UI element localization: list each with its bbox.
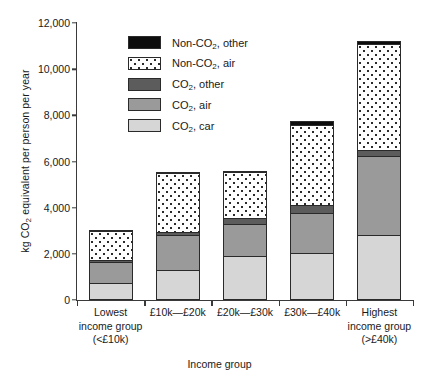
legend-item[interactable]: Non-CO2, air (128, 55, 248, 73)
legend-item[interactable]: CO2, car (128, 117, 248, 135)
legend-item[interactable]: Non-CO2, other (128, 34, 248, 52)
y-axis-tick-mark (72, 207, 78, 208)
bar-segment (224, 173, 266, 219)
bar-segment (291, 206, 333, 214)
legend-label: Non-CO2, air (172, 57, 235, 69)
y-axis-subscript: 2 (24, 218, 33, 223)
y-axis-tick-label: 6,000 (4, 156, 77, 168)
bar-segment (291, 214, 333, 254)
bar-segment (90, 263, 132, 284)
y-axis-tick-mark (72, 253, 78, 254)
bar-segment (157, 236, 199, 272)
legend-item[interactable]: CO2, air (128, 96, 248, 114)
x-axis-tick-label: Highestincome group(>£40k) (333, 306, 425, 347)
legend-swatch (128, 78, 161, 91)
legend-item[interactable]: CO2, other (128, 75, 248, 93)
y-axis-tick-label: 4,000 (4, 202, 77, 214)
y-axis-tick-label: 12,000 (4, 17, 77, 29)
bar-segment (90, 284, 132, 299)
legend-label: Non-CO2, other (172, 37, 248, 49)
legend-swatch (128, 98, 161, 111)
bar-segment (224, 225, 266, 257)
bar-segment (291, 254, 333, 299)
bar-segment (90, 232, 132, 261)
stacked-bar-chart: kg CO2 equivalent per person per year 02… (0, 0, 439, 383)
bar-3[interactable] (223, 171, 267, 300)
y-axis-tick-label: 8,000 (4, 109, 77, 121)
legend-swatch (128, 57, 161, 70)
legend-subscript: 2 (189, 104, 193, 113)
x-axis-tick-mark (413, 300, 414, 306)
legend-label: CO2, other (172, 78, 224, 90)
bar-segment (358, 45, 400, 151)
legend-subscript: 2 (189, 83, 193, 92)
y-axis-tick-mark (72, 161, 78, 162)
y-axis-tick-label: 0 (4, 294, 77, 306)
bar-segment (358, 157, 400, 235)
bar-5[interactable] (357, 41, 401, 300)
legend-label: CO2, car (172, 120, 214, 132)
y-axis-tick-label: 2,000 (4, 248, 77, 260)
legend-subscript: 2 (212, 42, 216, 51)
x-axis-title: Income group (0, 358, 439, 370)
legend-label: CO2, air (172, 99, 211, 111)
x-axis-line (76, 300, 413, 301)
bar-4[interactable] (290, 121, 334, 300)
y-axis-tick-mark (72, 68, 78, 69)
bar-segment (291, 126, 333, 206)
y-axis-tick-mark (72, 22, 78, 23)
chart-legend: Non-CO2, otherNon-CO2, airCO2, otherCO2,… (128, 34, 248, 137)
legend-subscript: 2 (212, 62, 216, 71)
bar-segment (157, 174, 199, 233)
legend-subscript: 2 (189, 125, 193, 134)
bar-segment (358, 236, 400, 299)
y-axis-tick-label: 10,000 (4, 63, 77, 75)
legend-swatch (128, 36, 161, 49)
bar-2[interactable] (156, 172, 200, 300)
bar-1[interactable] (89, 230, 133, 300)
y-axis-tick-mark (72, 115, 78, 116)
legend-swatch (128, 119, 161, 132)
bar-segment (224, 257, 266, 299)
bar-segment (157, 271, 199, 299)
